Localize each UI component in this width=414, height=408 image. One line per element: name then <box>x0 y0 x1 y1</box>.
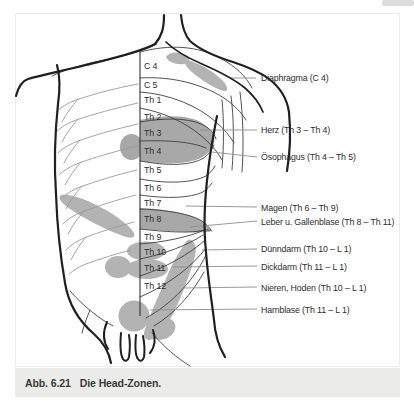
spine-label-c5: C 5 <box>144 80 158 90</box>
spine-label-th6: Th 6 <box>144 183 161 193</box>
zone-label-diaphragma: Diaphragma (C 4) <box>261 73 329 83</box>
spine-label-th8: Th 8 <box>144 214 161 224</box>
spine-label-th5: Th 5 <box>144 165 161 175</box>
spine-label-th1: Th 1 <box>144 95 161 105</box>
spine-label-th7: Th 7 <box>144 198 161 208</box>
zone-label-magen: Magen (Th 6 – Th 9) <box>261 203 338 213</box>
page-edge-artifact <box>382 0 414 6</box>
figure-caption-number: Abb. 6.21 <box>25 377 71 389</box>
spine-label-c4: C 4 <box>144 61 158 71</box>
zone-label-oesophagus: Ösophagus (Th 4 – Th 5) <box>261 152 356 162</box>
zone-label-dickdarm: Dickdarm (Th 11 – L 1) <box>261 262 347 272</box>
spine-label-th12: Th 12 <box>144 281 166 291</box>
spine-label-th10: Th 10 <box>144 247 166 257</box>
zone-label-duenndarm: Dünndarm (Th 10 – L 1) <box>261 244 351 254</box>
spine-label-th2: Th 2 <box>144 112 161 122</box>
spine-label-th9: Th 9 <box>144 232 161 242</box>
spine-label-th3: Th 3 <box>144 128 161 138</box>
figure-page: C 4 C 5 Th 1 Th 2 Th 3 Th 4 Th 5 Th 6 Th… <box>0 0 414 408</box>
zone-label-herz: Herz (Th 3 – Th 4) <box>261 125 330 135</box>
spine-label-th11: Th 11 <box>144 263 166 273</box>
figure-caption-bar: Abb. 6.21 Die Head-Zonen. <box>15 368 400 397</box>
zone-label-leber: Leber u. Gallenblase (Th 8 – Th 11) <box>261 217 395 227</box>
spine-label-th4: Th 4 <box>144 146 161 156</box>
head-zones-illustration: C 4 C 5 Th 1 Th 2 Th 3 Th 4 Th 5 Th 6 Th… <box>0 0 414 408</box>
figure-caption-text: Die Head-Zonen. <box>80 377 161 389</box>
zone-label-harnblase: Harnblase (Th 11 – L 1) <box>261 305 350 315</box>
zone-harnblase <box>119 301 150 332</box>
zone-label-nieren: Nieren, Hoden (Th 10 – L 1) <box>261 283 366 293</box>
